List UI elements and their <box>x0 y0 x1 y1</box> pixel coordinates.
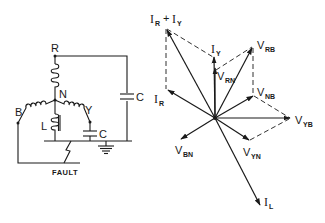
inductor-label: L <box>41 120 47 132</box>
svg-text:BN: BN <box>183 151 193 158</box>
circuit-diagram: C R N B Y L C <box>15 42 144 177</box>
svg-text:RB: RB <box>265 46 275 53</box>
svg-text:V: V <box>295 114 303 126</box>
svg-text:I: I <box>172 12 176 26</box>
dash-vyn-vyb <box>250 119 289 140</box>
svg-text:RN: RN <box>225 77 235 84</box>
winding-r-coil <box>51 64 59 100</box>
capacitor-y <box>83 131 97 136</box>
vector-il <box>215 118 260 205</box>
label-vrn: V RN <box>217 70 235 84</box>
svg-text:R: R <box>155 20 160 27</box>
capacitor-y-label: C <box>99 128 107 140</box>
node-y-label: Y <box>85 104 93 116</box>
node-n-label: N <box>59 88 67 100</box>
label-vyb: V YB <box>295 114 313 128</box>
fault-icon <box>64 141 71 163</box>
label-ir-plus-iy: I R + I Y <box>150 12 182 27</box>
capacitor-right <box>120 94 134 99</box>
svg-text:+: + <box>163 12 169 24</box>
winding-b-coil <box>18 100 55 123</box>
svg-text:L: L <box>269 203 274 210</box>
svg-text:I: I <box>154 92 158 106</box>
svg-text:R: R <box>159 100 164 107</box>
svg-text:V: V <box>175 144 183 156</box>
svg-text:V: V <box>243 146 251 158</box>
svg-text:YB: YB <box>303 121 313 128</box>
node-r-label: R <box>51 42 59 54</box>
fault-label: FAULT <box>52 168 78 177</box>
svg-text:V: V <box>257 39 265 51</box>
label-vyn: V YN <box>243 146 261 160</box>
inductor-l <box>51 100 60 141</box>
phasor-diagram: I R + I Y I Y V RB V RN I R V NB V YB <box>150 12 313 210</box>
label-vnb: V NB <box>257 86 275 100</box>
svg-text:I: I <box>211 42 215 56</box>
svg-text:V: V <box>257 86 265 98</box>
svg-text:I: I <box>150 12 154 26</box>
svg-text:I: I <box>264 195 268 209</box>
label-il: I L <box>264 195 274 210</box>
label-iy: I Y <box>211 42 221 57</box>
label-vbn: V BN <box>175 144 193 158</box>
ground-icon <box>98 141 114 154</box>
svg-text:Y: Y <box>216 50 221 57</box>
svg-text:V: V <box>217 70 225 82</box>
diagram-canvas: C R N B Y L C <box>0 0 325 223</box>
svg-text:NB: NB <box>265 93 275 100</box>
label-ir: I R <box>154 92 164 107</box>
phasor-origin <box>213 116 217 120</box>
node-b-label: B <box>15 106 22 118</box>
wire-b-fault <box>18 123 80 163</box>
capacitor-right-label: C <box>136 91 144 103</box>
vector-vbn <box>181 118 215 139</box>
svg-text:YN: YN <box>251 153 261 160</box>
label-vrb: V RB <box>257 39 275 53</box>
svg-text:Y: Y <box>177 20 182 27</box>
